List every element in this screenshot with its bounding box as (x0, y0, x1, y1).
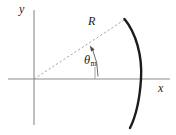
angle-label-subscript: m (91, 59, 97, 68)
x-axis-label: x (158, 82, 163, 94)
radius-label: R (88, 15, 95, 27)
angle-arrow-head (90, 46, 95, 52)
radius-dashed-line (34, 20, 125, 80)
y-axis-label: y (19, 3, 24, 15)
angle-label: θm (84, 54, 97, 68)
angle-label-symbol: θ (84, 53, 90, 67)
figure-container: y x R θm (0, 0, 176, 135)
mirror-surface-arc (125, 19, 142, 128)
